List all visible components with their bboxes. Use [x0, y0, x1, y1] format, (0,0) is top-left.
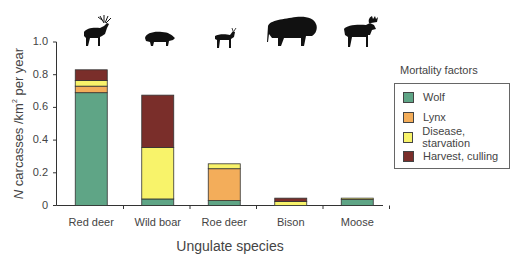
- bar-segment: [275, 198, 307, 201]
- y-axis-label-sup: 2: [11, 99, 18, 103]
- y-tick-label: 0.8: [28, 68, 48, 80]
- bar-segment: [75, 80, 107, 86]
- legend-item-disease: Disease, starvation: [403, 130, 509, 144]
- legend-label: Lynx: [423, 111, 446, 123]
- y-tick-label: 0.6: [28, 100, 48, 112]
- bar-segment: [142, 199, 174, 206]
- bar-segment: [275, 201, 307, 205]
- y-axis-label-n: N: [11, 190, 26, 199]
- bar-segment: [75, 93, 107, 206]
- x-ticks: [124, 206, 390, 210]
- x-tick-label: Bison: [256, 216, 326, 228]
- legend-swatch-harvest: [403, 151, 414, 162]
- y-tick-label: 0: [28, 199, 48, 211]
- moose-icon: [344, 16, 378, 47]
- y-axis-label-suffix: per year: [11, 48, 26, 99]
- bar-segment: [341, 199, 373, 205]
- legend-label: Harvest, culling: [423, 150, 498, 162]
- legend-label: Wolf: [423, 91, 445, 103]
- wild-boar-icon: [145, 32, 175, 46]
- x-tick-label: Moose: [322, 216, 392, 228]
- legend-swatch-wolf: [403, 92, 414, 103]
- bar-segment: [75, 70, 107, 81]
- y-tick-label: 1.0: [28, 35, 48, 47]
- bar-segment: [75, 86, 107, 93]
- bar-segment: [208, 169, 240, 201]
- legend-label: Disease, starvation: [422, 125, 509, 149]
- legend-title: Mortality factors: [400, 64, 478, 76]
- y-axis-label: N carcasses /km2 per year: [11, 44, 26, 204]
- legend-item-wolf: Wolf: [403, 90, 445, 104]
- bar-segment: [208, 201, 240, 206]
- y-ticks: [53, 42, 57, 206]
- legend-item-harvest: Harvest, culling: [403, 149, 498, 163]
- bar-segment: [208, 164, 240, 169]
- y-tick-label: 0.4: [28, 133, 48, 145]
- y-tick-label: 0.2: [28, 166, 48, 178]
- bar-segment: [142, 95, 174, 147]
- bar-segment: [142, 147, 174, 199]
- x-tick-label: Red deer: [56, 216, 126, 228]
- legend-swatch-disease: [403, 132, 413, 143]
- x-tick-label: Wild boar: [123, 216, 193, 228]
- roe-deer-icon: [215, 28, 236, 48]
- red-deer-icon: [84, 15, 111, 46]
- y-axis-label-main: carcasses /km: [11, 103, 26, 190]
- x-tick-label: Roe deer: [189, 216, 259, 228]
- legend-item-lynx: Lynx: [403, 110, 446, 124]
- bars: [75, 70, 373, 206]
- legend: Wolf Lynx Disease, starvation Harvest, c…: [394, 83, 510, 169]
- x-axis-label: Ungulate species: [140, 238, 320, 254]
- bar-segment: [341, 198, 373, 199]
- bison-icon: [267, 17, 317, 46]
- legend-swatch-lynx: [403, 112, 414, 123]
